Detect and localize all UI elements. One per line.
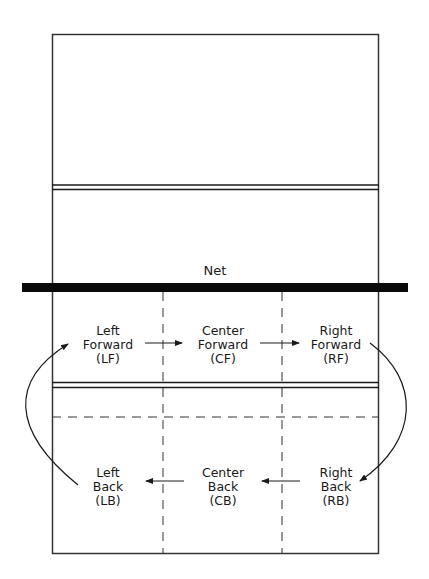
position-cf-line2: Forward	[183, 338, 263, 352]
position-lb-line3: (LB)	[68, 494, 148, 508]
position-rb-line2: Back	[296, 480, 376, 494]
position-rb-line3: (RB)	[296, 494, 376, 508]
position-rf: Right Forward (RF)	[296, 324, 376, 366]
position-cb-line1: Center	[183, 466, 263, 480]
far-attack-line	[52, 185, 379, 190]
position-cb: Center Back (CB)	[183, 466, 263, 508]
position-cf: Center Forward (CF)	[183, 324, 263, 366]
position-lf-line3: (LF)	[68, 352, 148, 366]
position-rb: Right Back (RB)	[296, 466, 376, 508]
position-cb-line3: (CB)	[183, 494, 263, 508]
net	[22, 283, 408, 292]
position-lf-line2: Forward	[68, 338, 148, 352]
position-rf-line1: Right	[296, 324, 376, 338]
position-lb-line1: Left	[68, 466, 148, 480]
position-cb-line2: Back	[183, 480, 263, 494]
position-lf: Left Forward (LF)	[68, 324, 148, 366]
position-cf-line3: (CF)	[183, 352, 263, 366]
near-attack-line	[52, 383, 379, 388]
position-rf-line2: Forward	[296, 338, 376, 352]
net-label: Net	[195, 263, 235, 278]
position-cf-line1: Center	[183, 324, 263, 338]
position-lb-line2: Back	[68, 480, 148, 494]
position-rf-line3: (RF)	[296, 352, 376, 366]
position-lb: Left Back (LB)	[68, 466, 148, 508]
position-rb-line1: Right	[296, 466, 376, 480]
position-lf-line1: Left	[68, 324, 148, 338]
